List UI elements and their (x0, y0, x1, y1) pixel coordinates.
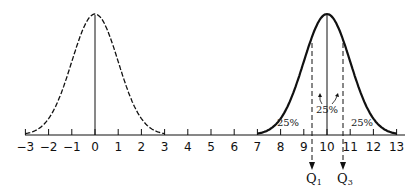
q1-arrow-icon (309, 162, 315, 170)
x-tick-label: 0 (91, 140, 99, 154)
x-tick-label: 9 (300, 140, 308, 154)
x-tick-label: 2 (138, 140, 146, 154)
x-tick-label: 13 (389, 140, 404, 154)
pct-label-center: 25% (316, 104, 338, 115)
x-tick-label: 7 (254, 140, 262, 154)
x-tick-label: −1 (63, 140, 81, 154)
center-left-arrow-icon (320, 96, 322, 104)
x-tick-label: 5 (207, 140, 215, 154)
q1-label: Q1 (306, 171, 322, 187)
x-tick-label: 4 (184, 140, 192, 154)
x-axis-ticks (25, 129, 396, 135)
x-tick-label: 1 (114, 140, 122, 154)
x-axis-tick-labels: −3−2−1012345678910111213 (17, 140, 405, 154)
pct-label-right: 25% (351, 117, 373, 128)
center-right-arrow-icon (332, 96, 337, 104)
x-tick-label: −2 (40, 140, 58, 154)
x-tick-label: 12 (366, 140, 381, 154)
q3-arrow-icon (340, 162, 346, 170)
x-tick-label: −3 (17, 140, 35, 154)
x-tick-label: 10 (319, 140, 334, 154)
normal-curves-diagram: −3−2−1012345678910111213 25% 25% 25% Q1 … (0, 0, 412, 194)
q3-label: Q3 (337, 171, 353, 187)
x-tick-label: 6 (230, 140, 238, 154)
center-left-arrowhead-icon (318, 93, 322, 97)
pct-label-left: 25% (277, 117, 299, 128)
center-right-arrowhead-icon (335, 93, 339, 97)
x-tick-label: 11 (343, 140, 358, 154)
x-tick-label: 3 (161, 140, 169, 154)
x-tick-label: 8 (277, 140, 285, 154)
